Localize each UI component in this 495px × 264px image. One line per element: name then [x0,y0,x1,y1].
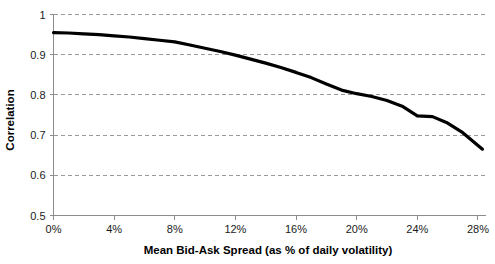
x-axis-title: Mean Bid-Ask Spread (as % of daily volat… [144,244,393,256]
x-tick-label-28: 28% [467,223,489,235]
x-tick-label-4: 4% [106,223,122,235]
y-tick-label-0_7: 0.7 [30,129,45,141]
x-tick-label-16: 16% [285,223,307,235]
y-tick-label-0_8: 0.8 [30,89,45,101]
y-tick-label-0_5: 0.5 [30,210,45,222]
x-tick-label-20: 20% [346,223,368,235]
y-axis-title: Correlation [4,89,16,150]
chart-container: 0.50.60.70.80.91 0%4%8%12%16%20%24%28% C… [0,0,495,264]
x-tick-label-8: 8% [167,223,183,235]
y-tick-label-1: 1 [39,9,45,21]
y-tick-label-0_6: 0.6 [30,169,45,181]
y-tick-label-0_9: 0.9 [30,49,45,61]
x-tick-label-0: 0% [46,223,62,235]
correlation-line-chart: 0.50.60.70.80.91 0%4%8%12%16%20%24%28% C… [0,0,495,264]
x-tick-label-24: 24% [406,223,428,235]
x-tick-label-12: 12% [224,223,246,235]
